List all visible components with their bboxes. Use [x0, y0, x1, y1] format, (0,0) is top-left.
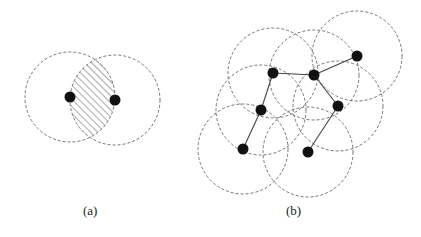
caption-panel-b: (b) — [286, 203, 301, 219]
node-A2 — [110, 95, 121, 106]
node-N7 — [303, 147, 314, 158]
sensing-range-circles — [198, 11, 402, 197]
edge-N1-N2 — [273, 73, 314, 75]
node-N4 — [256, 105, 267, 116]
node-A1 — [65, 92, 76, 103]
diagram-canvas — [0, 0, 421, 237]
node-N1 — [268, 68, 279, 79]
caption-panel-a: (a) — [83, 203, 97, 219]
edge-N2-N3 — [314, 56, 357, 75]
sensor-nodes — [238, 51, 363, 158]
edge-N4-N6 — [243, 110, 261, 149]
panel-b — [198, 11, 402, 197]
edge-N1-N4 — [261, 73, 273, 110]
edge-N2-N5 — [314, 75, 338, 106]
panel-a — [25, 52, 160, 145]
node-N6 — [238, 144, 249, 155]
node-N2 — [309, 70, 320, 81]
node-N3 — [352, 51, 363, 62]
node-N5 — [333, 101, 344, 112]
edge-N5-N7 — [308, 106, 338, 152]
